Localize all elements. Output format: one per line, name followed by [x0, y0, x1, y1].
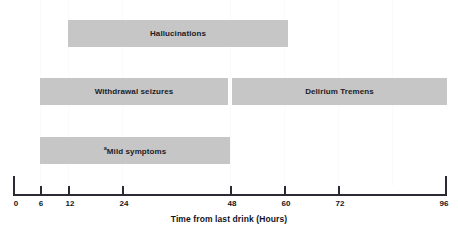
x-axis-cap-end	[445, 176, 447, 196]
bar-withdrawal-seizures: Withdrawal seizures	[40, 78, 228, 105]
x-tick-label-12: 12	[66, 199, 75, 208]
x-tick-6	[40, 186, 42, 195]
x-axis-cap-start	[13, 176, 15, 196]
bar-label-delirium-tremens: Delirium Tremens	[305, 87, 374, 96]
bar-label-withdrawal-seizures: Withdrawal seizures	[95, 87, 174, 96]
x-tick-48	[230, 186, 232, 195]
x-tick-24	[122, 186, 124, 195]
x-tick-label-6: 6	[39, 199, 43, 208]
bar-label-mild-symptoms-text: Mild symptoms	[107, 147, 167, 156]
bar-hallucinations: Hallucinations	[68, 20, 288, 47]
x-tick-label-48: 48	[228, 199, 237, 208]
x-tick-72	[338, 186, 340, 195]
x-tick-60	[284, 186, 286, 195]
bar-mild-symptoms: aMild symptoms	[40, 137, 230, 164]
bar-label-mild-symptoms: aMild symptoms	[104, 145, 167, 156]
x-tick-label-60: 60	[282, 199, 291, 208]
x-tick-label-0: 0	[14, 199, 18, 208]
bar-delirium-tremens: Delirium Tremens	[232, 78, 447, 105]
x-tick-label-72: 72	[336, 199, 345, 208]
withdrawal-timeline-chart: Hallucinations Withdrawal seizures Delir…	[0, 0, 458, 232]
x-tick-label-24: 24	[120, 199, 129, 208]
bar-label-hallucinations: Hallucinations	[150, 29, 206, 38]
x-tick-label-96: 96	[440, 199, 449, 208]
x-axis-title: Time from last drink (Hours)	[0, 214, 458, 224]
x-tick-12	[68, 186, 70, 195]
